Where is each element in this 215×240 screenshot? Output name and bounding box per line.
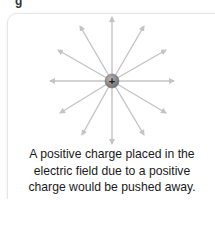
figure-caption: A positive charge placed in the electric… [12,146,212,196]
caption-line: A positive charge placed in the [12,146,212,163]
field-line-arrow [112,81,166,113]
plus-sign-icon: + [109,75,115,87]
caption-line: electric field due to a positive [12,163,212,180]
field-line-arrow [112,26,144,81]
field-line-arrow [112,81,144,135]
field-line-arrow [60,81,112,113]
caption-line: charge would be pushed away. [12,179,212,196]
field-line-arrow [58,50,112,81]
field-line-arrow [82,81,112,135]
field-line-arrow [80,26,112,81]
field-line-arrow [112,50,166,81]
